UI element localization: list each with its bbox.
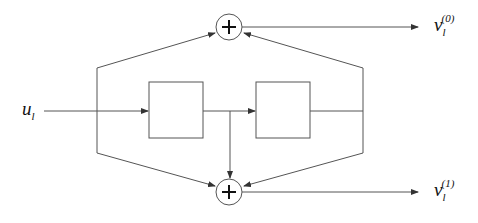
encoder-diagram — [0, 0, 478, 223]
delay2-to-top-adder — [244, 33, 363, 68]
output-1-subscript: l — [442, 191, 445, 203]
input-to-top-adder — [97, 33, 215, 68]
input-symbol: u — [22, 98, 32, 119]
delay-box-2 — [256, 82, 310, 138]
delay-box-1 — [149, 82, 203, 138]
output-0-superscript: (0) — [442, 12, 455, 24]
output-1-superscript: (1) — [442, 177, 455, 189]
input-to-bottom-adder — [97, 153, 215, 186]
output-1-label: vl(1) — [434, 179, 458, 201]
delay2-to-bottom-adder — [244, 153, 363, 186]
output-0-label: vl(0) — [434, 14, 458, 36]
output-0-subscript: l — [442, 26, 445, 38]
input-label: ul — [22, 98, 35, 120]
input-subscript: l — [32, 110, 35, 122]
